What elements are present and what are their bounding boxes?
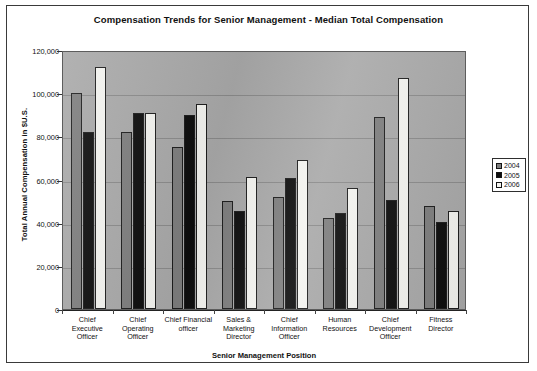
- bar-2004: [222, 201, 233, 309]
- x-axis-tick: [62, 310, 63, 314]
- x-axis-title: Senior Management Position: [62, 351, 466, 360]
- y-axis-tick-label: 60,000: [0, 177, 59, 186]
- bar-2006: [246, 177, 257, 309]
- bar-2006: [297, 160, 308, 309]
- x-axis-label-line: Officer: [106, 333, 170, 342]
- y-axis-tick: [57, 51, 62, 52]
- x-axis-label-line: Officer: [257, 333, 321, 342]
- y-axis-tick-label: 120,000: [0, 47, 59, 56]
- y-axis-tick: [57, 267, 62, 268]
- bar-2004: [172, 147, 183, 309]
- legend-label: 2006: [504, 181, 520, 188]
- bar-group: [215, 52, 266, 309]
- plot-area: [62, 51, 466, 310]
- bar-2005: [285, 178, 296, 309]
- x-axis-tick: [315, 310, 316, 314]
- x-axis-tick: [466, 310, 467, 314]
- y-axis-tick: [57, 94, 62, 95]
- bar-2005: [184, 115, 195, 309]
- bar-2006: [95, 67, 106, 309]
- x-axis-tick: [113, 310, 114, 314]
- y-axis-tick-label: 80,000: [0, 133, 59, 142]
- y-axis-tick-label: 100,000: [0, 90, 59, 99]
- y-axis-tick-label: 20,000: [0, 263, 59, 272]
- bar-2004: [323, 218, 334, 309]
- bar-2006: [448, 211, 459, 309]
- y-axis-tick: [57, 224, 62, 225]
- bar-2005: [386, 200, 397, 309]
- bar-group: [417, 52, 467, 309]
- legend-item-2005[interactable]: 2005: [496, 172, 523, 179]
- bar-2005: [133, 113, 144, 309]
- x-axis-tick-label: FitnessDirector: [409, 316, 473, 333]
- x-axis-tick: [214, 310, 215, 314]
- bar-group: [316, 52, 367, 309]
- x-axis-tick: [365, 310, 366, 314]
- bar-group: [265, 52, 316, 309]
- bar-2004: [71, 93, 82, 309]
- bar-2006: [398, 78, 409, 309]
- bar-group: [114, 52, 165, 309]
- bar-2005: [83, 132, 94, 309]
- bar-2006: [145, 113, 156, 309]
- chart-legend: 200420052006: [492, 158, 526, 192]
- bar-group: [366, 52, 417, 309]
- x-axis-label-line: Officer: [358, 333, 422, 342]
- y-axis-tick: [57, 137, 62, 138]
- bar-2004: [424, 206, 435, 309]
- legend-label: 2004: [504, 162, 520, 169]
- x-axis-tick: [416, 310, 417, 314]
- x-axis-tick: [264, 310, 265, 314]
- bar-2005: [436, 222, 447, 309]
- bar-2004: [374, 117, 385, 309]
- bar-2006: [347, 188, 358, 309]
- y-axis-tick: [57, 181, 62, 182]
- bar-2004: [273, 197, 284, 309]
- bar-2004: [121, 132, 132, 309]
- legend-swatch-icon: [496, 172, 502, 178]
- legend-item-2006[interactable]: 2006: [496, 181, 523, 188]
- chart-title: Compensation Trends for Senior Managemen…: [0, 14, 537, 25]
- bar-2005: [335, 213, 346, 309]
- y-axis-tick-label: 0: [0, 306, 59, 315]
- y-axis-tick-label: 40,000: [0, 220, 59, 229]
- x-axis-tick: [163, 310, 164, 314]
- bar-group: [63, 52, 114, 309]
- bar-group: [164, 52, 215, 309]
- legend-label: 2005: [504, 172, 520, 179]
- legend-swatch-icon: [496, 163, 502, 169]
- legend-swatch-icon: [496, 182, 502, 188]
- bar-2006: [196, 104, 207, 309]
- x-axis-label-line: Director: [409, 325, 473, 334]
- legend-item-2004[interactable]: 2004: [496, 162, 523, 169]
- bar-2005: [234, 211, 245, 309]
